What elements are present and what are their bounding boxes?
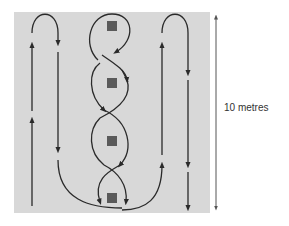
dimension-label: 10 metres: [224, 102, 268, 113]
cone-2: [107, 78, 117, 88]
cone-3: [107, 136, 117, 146]
cone-4: [107, 193, 117, 203]
cone-1: [107, 21, 117, 31]
field-area: [14, 12, 210, 213]
movement-diagram: [0, 0, 289, 226]
